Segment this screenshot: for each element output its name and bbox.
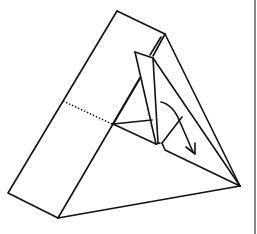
- outer-triangular-body: [58, 34, 240, 218]
- curved-fold-arrow: [161, 102, 195, 154]
- inner-flap: [113, 52, 240, 186]
- origami-diagram: [0, 0, 257, 234]
- left-side-face: [8, 11, 165, 218]
- dotted-crease-line: [63, 101, 112, 124]
